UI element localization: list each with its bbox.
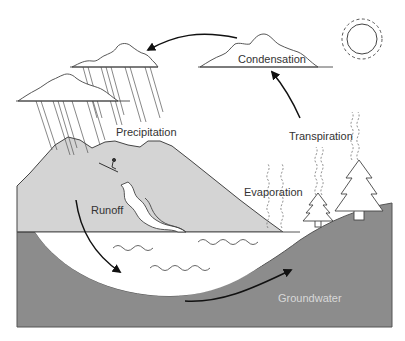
label-condensation: Condensation	[238, 53, 306, 65]
rain-cloud-icon	[70, 44, 158, 68]
arrow-condensation-to-precipitation	[148, 34, 237, 50]
rain-cloud-icon	[16, 74, 130, 101]
label-transpiration: Transpiration	[289, 130, 353, 142]
arrow-transpiration-to-condensation	[272, 72, 300, 118]
water-cycle-diagram: Condensation Precipitation Transpiration…	[0, 0, 405, 341]
label-groundwater: Groundwater	[278, 292, 342, 304]
sun-icon	[342, 19, 382, 59]
pine-tree-icon	[335, 160, 383, 220]
label-runoff: Runoff	[91, 204, 124, 216]
label-evaporation: Evaporation	[244, 186, 303, 198]
label-precipitation: Precipitation	[116, 126, 177, 138]
pine-tree-icon	[303, 193, 333, 227]
